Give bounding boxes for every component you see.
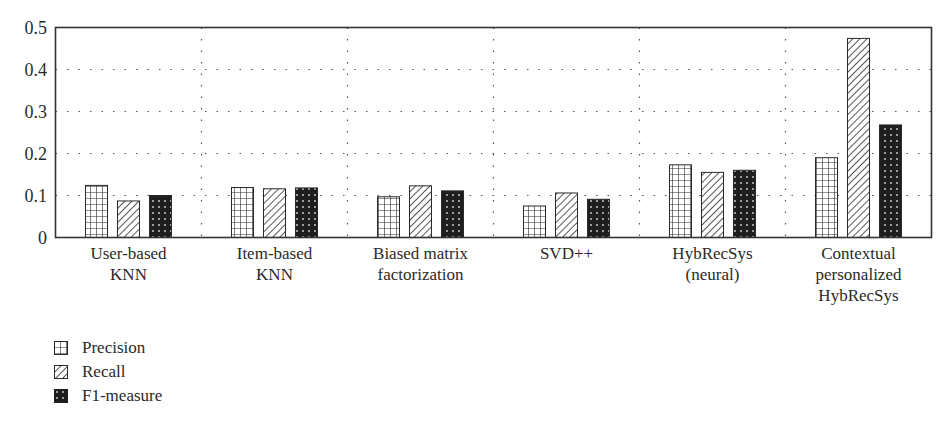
bar-precision	[86, 185, 108, 237]
legend-item-precision: Precision	[54, 336, 162, 360]
x-category-label: Item-based	[237, 244, 313, 263]
bar-recall	[556, 193, 578, 238]
x-category-label: HybRecSys	[818, 286, 898, 305]
legend-item-recall: Recall	[54, 360, 162, 384]
bar-recall	[848, 38, 870, 237]
bars	[86, 38, 902, 237]
bar-f1-measure	[296, 188, 318, 238]
legend-label: Recall	[82, 362, 125, 382]
bar-f1-measure	[734, 170, 756, 237]
bar-precision	[378, 197, 400, 238]
y-tick-label: 0.1	[25, 186, 48, 206]
x-category-label: Contextual	[821, 244, 896, 263]
bar-chart: 00.10.20.30.40.5 User-basedKNNItem-based…	[0, 0, 949, 330]
bar-recall	[264, 189, 286, 238]
recall-hatch-swatch-icon	[54, 365, 68, 379]
bar-f1-measure	[442, 191, 464, 238]
bar-precision	[524, 206, 546, 238]
x-category-label: User-based	[90, 244, 167, 263]
legend-item-f1: F1-measure	[54, 384, 162, 408]
bar-f1-measure	[588, 199, 610, 237]
bar-recall	[702, 172, 724, 237]
bar-recall	[410, 186, 432, 238]
bar-precision	[816, 158, 838, 238]
y-axis-ticks: 00.10.20.30.40.5	[25, 18, 48, 248]
precision-grid-swatch-icon	[54, 341, 68, 355]
bar-precision	[670, 165, 692, 238]
legend-label: Precision	[82, 338, 145, 358]
y-tick-label: 0.3	[25, 102, 48, 122]
x-category-label: personalized	[816, 265, 902, 284]
y-tick-label: 0.5	[25, 18, 48, 38]
x-category-label: Biased matrix	[373, 244, 468, 263]
f1-dotted-swatch-icon	[54, 389, 68, 403]
y-tick-label: 0.2	[25, 144, 48, 164]
x-category-label: (neural)	[686, 265, 740, 284]
gridlines	[56, 28, 932, 238]
x-axis-labels: User-basedKNNItem-basedKNNBiased matrixf…	[90, 244, 902, 305]
legend-label: F1-measure	[82, 386, 162, 406]
bar-precision	[232, 188, 254, 238]
bar-f1-measure	[880, 125, 902, 238]
bar-recall	[118, 201, 140, 238]
y-tick-label: 0.4	[25, 60, 48, 80]
x-category-label: SVD++	[540, 244, 593, 263]
x-category-label: factorization	[378, 265, 464, 284]
y-tick-label: 0	[38, 228, 47, 248]
legend: Precision Recall F1-measure	[54, 336, 162, 408]
bar-f1-measure	[150, 196, 172, 238]
x-category-label: KNN	[110, 265, 147, 284]
x-category-label: KNN	[256, 265, 293, 284]
x-category-label: HybRecSys	[672, 244, 752, 263]
